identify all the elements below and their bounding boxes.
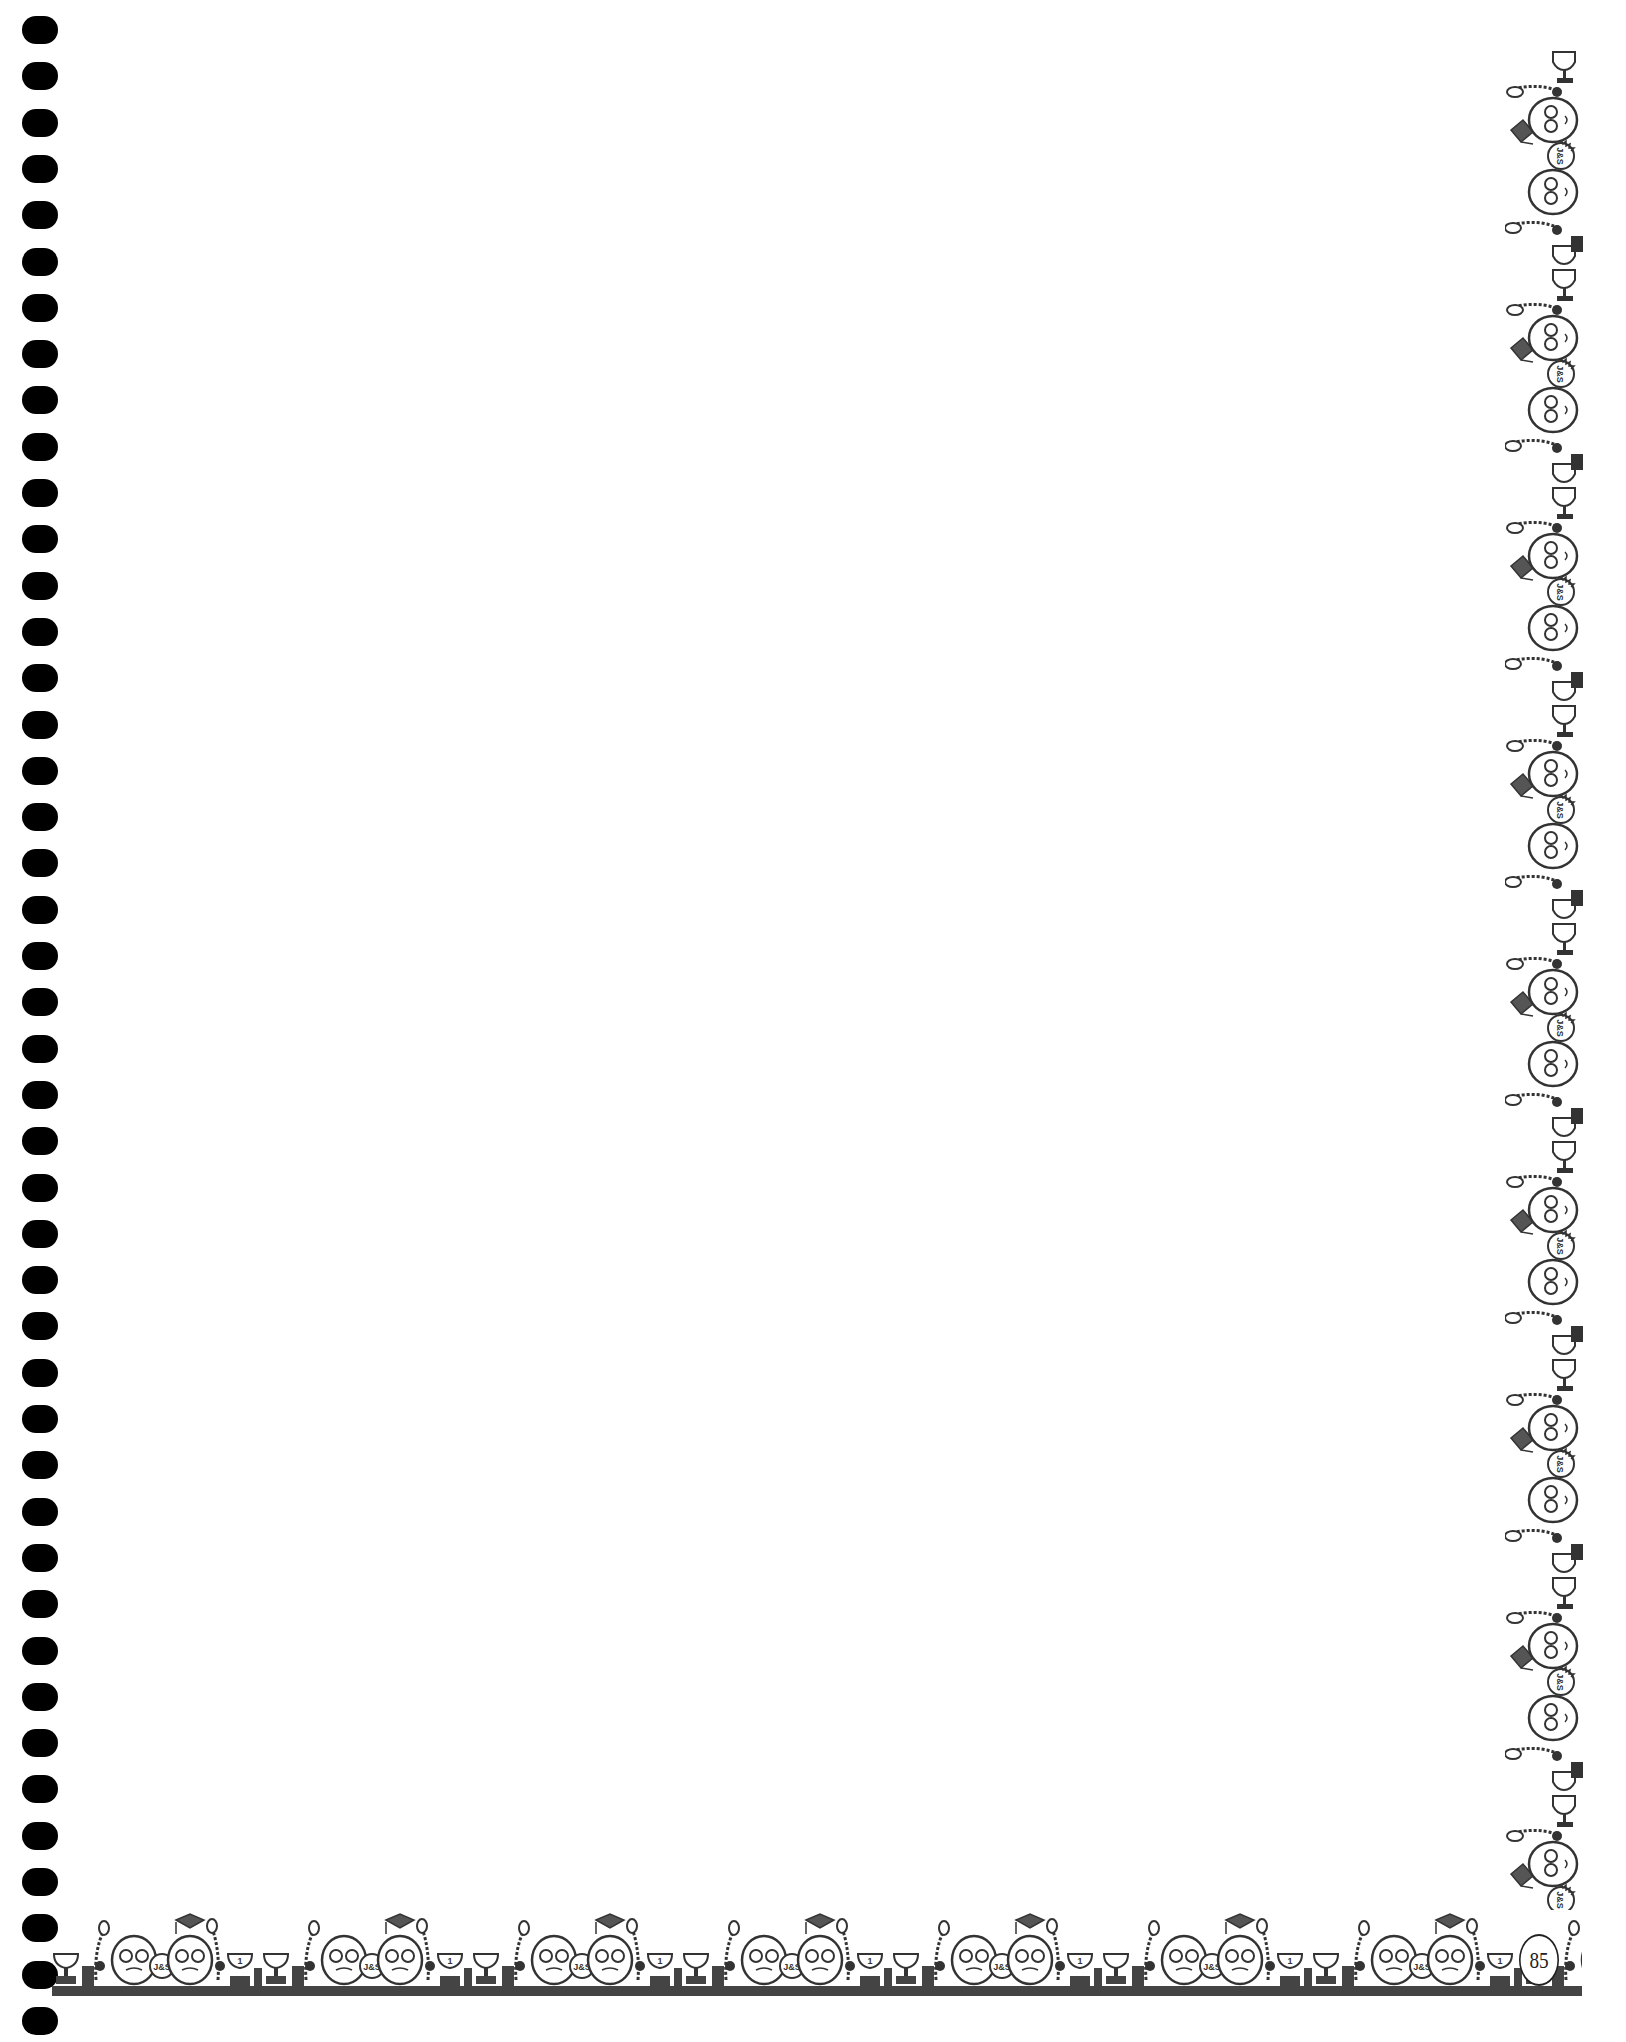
binder-holes — [22, 16, 58, 2036]
binder-hole — [22, 1266, 58, 1294]
binder-hole — [22, 1822, 58, 1850]
binder-hole — [22, 109, 58, 137]
graduate-motif-icon: J&S — [1505, 50, 1583, 1910]
binder-hole — [22, 1220, 58, 1248]
binder-hole — [22, 1081, 58, 1109]
binder-hole — [22, 1451, 58, 1479]
binder-hole — [22, 1683, 58, 1711]
binder-hole — [22, 618, 58, 646]
binder-hole — [22, 1590, 58, 1618]
binder-hole — [22, 1498, 58, 1526]
binder-hole — [22, 803, 58, 831]
binder-hole — [22, 942, 58, 970]
binder-hole — [22, 1729, 58, 1757]
page-number-badge: 85 — [1519, 1934, 1559, 1986]
binder-hole — [22, 896, 58, 924]
binder-hole — [22, 849, 58, 877]
binder-hole — [22, 1637, 58, 1665]
binder-hole — [22, 1359, 58, 1387]
binder-hole — [22, 479, 58, 507]
binder-hole — [22, 1127, 58, 1155]
binder-hole — [22, 1868, 58, 1896]
decorative-border-right: J&S — [1505, 50, 1583, 1910]
binder-hole — [22, 664, 58, 692]
binder-hole — [22, 1312, 58, 1340]
binder-hole — [22, 386, 58, 414]
binder-hole — [22, 572, 58, 600]
binder-hole — [22, 248, 58, 276]
blank-writing-area — [80, 40, 1480, 1890]
binder-hole — [22, 1775, 58, 1803]
binder-hole — [22, 201, 58, 229]
binder-hole — [22, 2007, 58, 2035]
binder-hole — [22, 1405, 58, 1433]
binder-hole — [22, 294, 58, 322]
binder-hole — [22, 1035, 58, 1063]
binder-hole — [22, 525, 58, 553]
binder-hole — [22, 1174, 58, 1202]
graduate-motif-icon: J&S 1 — [52, 1910, 1582, 2000]
decorative-border-bottom: J&S 1 — [52, 1910, 1582, 2000]
binder-hole — [22, 988, 58, 1016]
notebook-page: J&S — [0, 0, 1626, 2042]
binder-hole — [22, 433, 58, 461]
binder-hole — [22, 711, 58, 739]
binder-hole — [22, 757, 58, 785]
binder-hole — [22, 340, 58, 368]
binder-hole — [22, 16, 58, 44]
binder-hole — [22, 62, 58, 90]
binder-hole — [22, 1544, 58, 1572]
binder-hole — [22, 155, 58, 183]
